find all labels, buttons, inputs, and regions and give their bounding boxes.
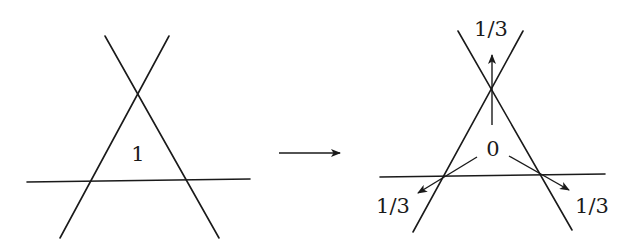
diagram-canvas: 1 0 1/3 1/3 1/3	[0, 0, 630, 250]
arrow-down-right-icon	[509, 156, 569, 190]
left-line-descending	[105, 36, 219, 238]
arrow-down-left-icon	[418, 157, 477, 193]
left-triangle-diagram: 1	[27, 36, 250, 238]
left-line-horizontal	[27, 179, 250, 182]
left-line-ascending	[60, 36, 169, 238]
right-center-label: 0	[486, 137, 499, 161]
right-triangle-diagram: 0 1/3 1/3 1/3	[376, 17, 609, 232]
right-line-descending	[458, 31, 572, 230]
right-line-ascending	[413, 31, 523, 232]
right-line-horizontal	[380, 174, 605, 177]
bottom-left-vertex-fraction: 1/3	[376, 194, 410, 218]
top-vertex-fraction: 1/3	[474, 17, 508, 41]
left-center-label: 1	[131, 142, 144, 166]
bottom-right-vertex-fraction: 1/3	[575, 194, 609, 218]
